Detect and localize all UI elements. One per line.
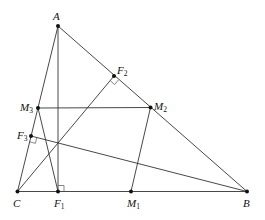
label-a: A [52,10,60,22]
label-f3: F3 [16,129,28,143]
label-b: B [243,197,250,209]
segment-m3-m2 [38,108,151,109]
geometry-diagram: A B C F1 F2 F3 M1 M2 M3 [0,0,265,220]
point-m3 [36,106,40,110]
point-f1 [56,190,60,194]
points [16,24,250,194]
point-a [56,24,60,28]
point-m2 [149,106,153,110]
right-angle-mark-f2 [110,80,118,85]
point-labels: A B C F1 F2 F3 M1 M2 M3 [13,10,250,211]
label-c: C [13,197,21,209]
label-m1: M1 [126,197,140,211]
point-c [16,190,20,194]
label-f2: F2 [116,64,128,78]
point-m1 [129,190,133,194]
label-m3: M3 [19,101,33,115]
label-m2: M2 [153,100,167,114]
label-f1: F1 [53,197,65,211]
point-f3 [29,134,33,138]
right-angle-marks [30,80,119,192]
point-b [245,190,249,194]
segment-m2-m1 [131,108,151,192]
point-f2 [112,74,116,78]
segment-m3-f1 [38,108,58,192]
segments [18,26,248,192]
segment-b-f3 [31,136,247,192]
